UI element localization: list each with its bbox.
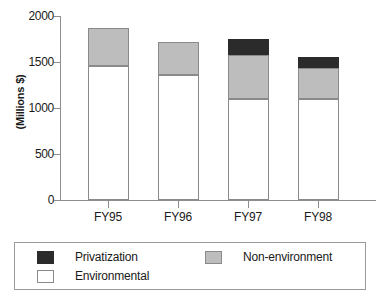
bar-segment-nonenvironment [298,68,339,99]
privatization-swatch-icon [37,251,54,264]
y-tick-label: 0 [16,194,54,206]
bar-segment-nonenvironment [88,28,129,66]
bar-stack-fy98 [298,57,339,200]
x-tick-label-fy95: FY95 [73,210,143,224]
x-tick-label-fy96: FY96 [143,210,213,224]
nonenvironment-swatch-icon [205,251,222,264]
x-tick-mark [108,201,109,208]
legend-item-nonenvironment: Non-environment [205,251,332,264]
bar-segment-environmental [158,75,199,200]
legend-item-environmental: Environmental [37,270,149,283]
y-tick-mark [54,16,61,17]
y-tick-mark [54,200,61,201]
legend-label: Environmental [75,270,149,283]
bar-segment-nonenvironment [228,55,269,99]
bar-segment-environmental [298,99,339,200]
y-axis-tick-labels: 2000 1500 1000 500 0 [10,0,54,232]
stacked-bar-chart: (Millions $) 2000 1500 1000 500 0 [0,0,381,302]
y-tick-label: 500 [16,148,54,160]
y-tick-label: 1000 [16,102,54,114]
bar-segment-privatization [228,39,269,55]
chart-legend: Privatization Environmental Non-environm… [14,242,366,290]
x-tick-mark [248,201,249,208]
x-tick-mark [178,201,179,208]
bar-stack-fy96 [158,42,199,200]
x-tick-mark [318,201,319,208]
bar-segment-environmental [88,66,129,200]
bar-stack-fy97 [228,39,269,200]
plot-area: (Millions $) 2000 1500 1000 500 0 [0,0,381,232]
legend-label: Privatization [75,251,138,264]
legend-item-privatization: Privatization [37,251,138,264]
environmental-swatch-icon [37,270,54,283]
x-tick-label-fy98: FY98 [283,210,353,224]
bar-segment-privatization [298,57,339,68]
y-tick-mark [54,108,61,109]
y-tick-mark [54,62,61,63]
bar-segment-environmental [228,99,269,200]
bar-segment-nonenvironment [158,42,199,75]
x-tick-label-fy97: FY97 [213,210,283,224]
y-tick-mark [54,154,61,155]
y-tick-label: 1500 [16,56,54,68]
bar-stack-fy95 [88,28,129,200]
legend-label: Non-environment [243,251,332,264]
y-tick-label: 2000 [16,10,54,22]
